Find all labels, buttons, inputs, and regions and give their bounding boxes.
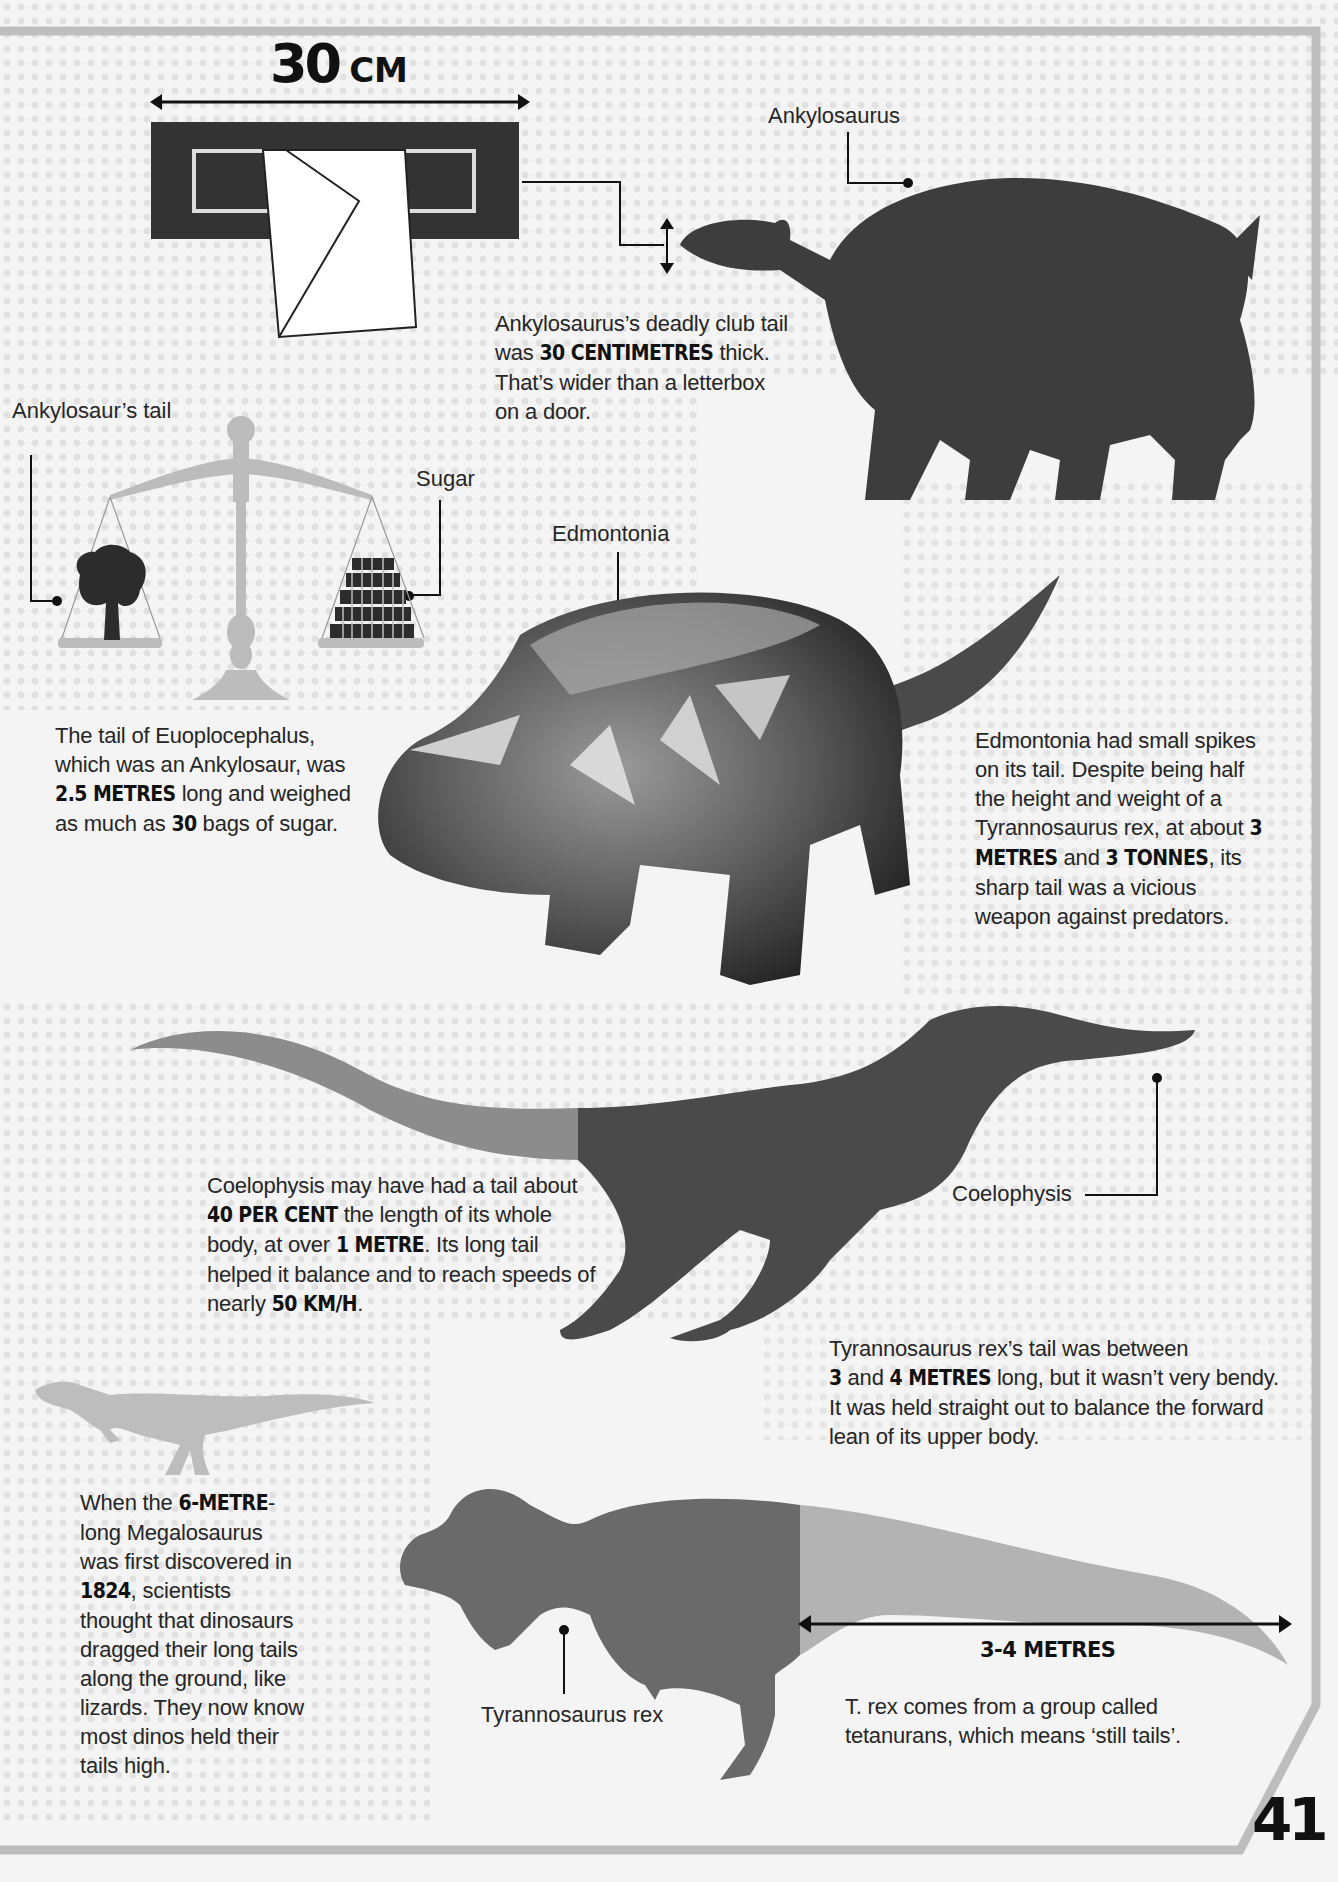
ankylosaurus-fact: Ankylosaurus’s deadly club tail was 30 C… (495, 309, 795, 426)
edmontonia-fact: Edmontonia had small spikes on its tail.… (975, 726, 1275, 931)
ankylosaurus-pointer (846, 130, 916, 190)
coelophysis-label: Coelophysis (952, 1181, 1072, 1207)
letterbox-illustration (151, 122, 521, 342)
connector-line (522, 182, 682, 274)
tail-length-label: 3-4 METRES (980, 1636, 1115, 1664)
tetanurans-note: T. rex comes from a group called tetanur… (845, 1692, 1205, 1750)
coelophysis-fact: Coelophysis may have had a tail about 40… (207, 1171, 597, 1319)
megalosaurus-fact: When the 6-METRE-long Megalosaurus was f… (80, 1488, 305, 1780)
trex-pointer (558, 1624, 570, 1696)
tail-club-icon (77, 545, 146, 640)
trex-fact: Tyrannosaurus rex’s tail was between 3 a… (829, 1334, 1279, 1451)
edmontonia-label: Edmontonia (552, 521, 669, 547)
page-number: 41 (1252, 1790, 1325, 1850)
coelophysis-pointer (1085, 1070, 1165, 1200)
euoplocephalus-fact: The tail of Euoplocephalus, which was an… (55, 721, 385, 839)
ankylosaurus-label: Ankylosaurus (768, 103, 900, 129)
measure-label-30cm: 30CM (270, 34, 408, 100)
edmontonia-image (370, 575, 1070, 1015)
trex-label: Tyrannosaurus rex (481, 1702, 663, 1728)
width-arrow (150, 92, 530, 112)
tail-length-arrow (798, 1614, 1292, 1634)
megalosaurus-silhouette (30, 1355, 380, 1485)
measure-value: 30 (270, 32, 339, 95)
measure-unit: CM (349, 50, 408, 90)
